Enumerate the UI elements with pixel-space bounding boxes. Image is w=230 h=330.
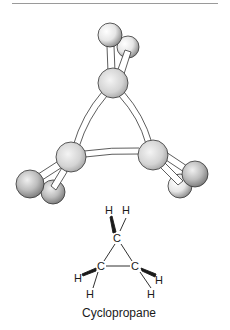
formula-c-top: C bbox=[113, 233, 121, 244]
carbon-left bbox=[56, 142, 86, 172]
hydrogen-front-right bbox=[182, 161, 208, 187]
hydrogen-front-left bbox=[16, 170, 44, 198]
carbon-top bbox=[98, 68, 128, 98]
formula-c-right: C bbox=[131, 261, 139, 272]
carbon-right bbox=[138, 140, 168, 170]
ball-and-stick-model bbox=[0, 0, 230, 330]
bonds-front bbox=[32, 46, 193, 184]
formula-h-left-lower: H bbox=[86, 289, 94, 300]
formula-h-top-right: H bbox=[122, 205, 130, 216]
formula-h-top-left: H bbox=[105, 205, 113, 216]
formula-h-right-upper: H bbox=[155, 275, 163, 286]
hydrogen-front-top bbox=[98, 23, 122, 47]
formula-h-left-upper: H bbox=[74, 273, 82, 284]
formula-h-right-lower: H bbox=[147, 289, 155, 300]
structural-formula-bonds bbox=[82, 216, 156, 288]
formula-c-left: C bbox=[97, 261, 105, 272]
figure-caption: Cyclopropane bbox=[0, 306, 230, 320]
